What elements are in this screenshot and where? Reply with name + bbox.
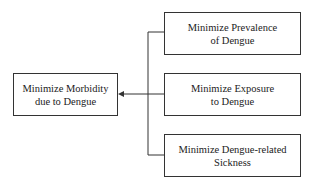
arrowhead-icon (118, 91, 124, 97)
child-node-line1: Minimize Exposure (191, 82, 274, 95)
child-node-line2: of Dengue (188, 34, 278, 47)
child-node-exposure: Minimize Exposure to Dengue (164, 73, 301, 116)
child-node-prevalence: Minimize Prevalence of Dengue (164, 12, 301, 55)
child-node-line2: to Dengue (191, 95, 274, 108)
child-node-sickness: Minimize Dengue-related Sickness (164, 134, 301, 177)
child-node-line1: Minimize Dengue-related (178, 143, 286, 156)
child-node-line2: Sickness (178, 156, 286, 169)
root-node-morbidity: Minimize Morbidity due to Dengue (13, 73, 118, 116)
child-node-line1: Minimize Prevalence (188, 21, 278, 34)
root-node-line2: due to Dengue (22, 95, 108, 108)
root-node-line1: Minimize Morbidity (22, 82, 108, 95)
